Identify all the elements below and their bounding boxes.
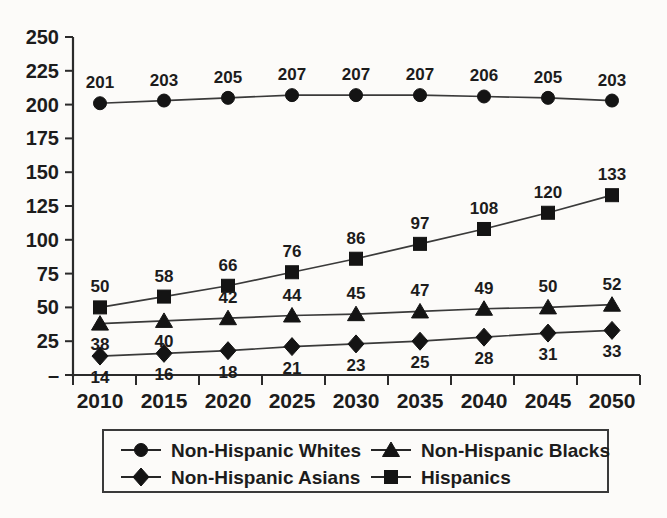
y-tick-label: 75 <box>37 263 59 285</box>
data-point-label: 205 <box>214 68 242 87</box>
legend-label: Hispanics <box>421 467 511 488</box>
x-category-label: 2050 <box>589 389 636 412</box>
series-circle <box>94 89 619 110</box>
data-point-label: 42 <box>219 288 238 307</box>
x-category-label: 2030 <box>333 389 380 412</box>
data-point-label: 47 <box>411 281 430 300</box>
marker-square <box>286 266 299 279</box>
marker-diamond <box>604 321 620 339</box>
y-tick-label: 25 <box>37 330 59 352</box>
legend-entry-triangle[interactable]: Non-Hispanic Blacks <box>371 440 610 461</box>
data-point-label: 21 <box>283 359 302 378</box>
data-point-label: 28 <box>475 349 494 368</box>
x-category-label: 2015 <box>141 389 188 412</box>
data-point-label: 206 <box>470 66 498 85</box>
marker-square <box>542 206 555 219</box>
data-point-label: 205 <box>534 68 562 87</box>
data-point-label: 203 <box>598 71 626 90</box>
data-point-label: 86 <box>347 229 366 248</box>
data-point-label: 16 <box>155 365 174 384</box>
y-tick-label: 150 <box>26 161 59 183</box>
marker-diamond <box>284 338 300 356</box>
data-point-label: 14 <box>91 368 110 387</box>
data-point-label: 45 <box>347 284 366 303</box>
data-point-label: 58 <box>155 267 174 286</box>
y-tick-label: 225 <box>26 60 59 82</box>
marker-triangle <box>604 297 621 312</box>
legend-entry-square[interactable]: Hispanics <box>371 467 511 488</box>
legend-label: Non-Hispanic Blacks <box>421 440 610 461</box>
marker-circle <box>414 89 427 102</box>
marker-circle <box>606 94 619 107</box>
data-point-label: 207 <box>342 65 370 84</box>
marker-circle <box>286 89 299 102</box>
data-point-label: 203 <box>150 71 178 90</box>
population-projection-line-chart: –255075100125150175200225250 20102015202… <box>0 0 667 518</box>
data-point-label: 120 <box>534 183 562 202</box>
marker-square <box>94 301 107 314</box>
data-point-label: 207 <box>406 65 434 84</box>
data-point-label: 133 <box>598 165 626 184</box>
data-point-label: 25 <box>411 353 430 372</box>
y-tick-label: 100 <box>26 229 59 251</box>
marker-circle <box>94 97 107 110</box>
legend-label: Non-Hispanic Whites <box>171 440 361 461</box>
marker-circle <box>158 94 171 107</box>
data-point-label: 18 <box>219 363 238 382</box>
x-category-label: 2035 <box>397 389 444 412</box>
marker-square <box>350 252 363 265</box>
data-point-label: 33 <box>603 342 622 361</box>
data-point-label: 97 <box>411 214 430 233</box>
marker-circle <box>135 444 148 457</box>
data-point-label: 23 <box>347 356 366 375</box>
marker-square <box>478 222 491 235</box>
data-point-label: 50 <box>91 277 110 296</box>
y-tick-label: 125 <box>26 195 59 217</box>
marker-circle <box>542 91 555 104</box>
data-point-label: 108 <box>470 199 498 218</box>
chart-figure: –255075100125150175200225250 20102015202… <box>0 0 667 518</box>
data-point-label: 38 <box>91 335 110 354</box>
marker-diamond <box>348 335 364 353</box>
data-point-label: 44 <box>283 286 302 305</box>
y-tick-label: 175 <box>26 127 59 149</box>
marker-circle <box>478 90 491 103</box>
marker-diamond <box>133 468 149 486</box>
chart-legend: Non-Hispanic WhitesNon-Hispanic BlacksNo… <box>103 430 610 492</box>
data-point-label: 31 <box>539 345 558 364</box>
legend-label: Non-Hispanic Asians <box>171 467 360 488</box>
data-point-label: 76 <box>283 242 302 261</box>
marker-diamond <box>412 332 428 350</box>
marker-square <box>606 189 619 202</box>
x-category-label: 2025 <box>269 389 316 412</box>
marker-diamond <box>476 328 492 346</box>
y-tick-label: – <box>48 364 59 386</box>
marker-diamond <box>540 324 556 342</box>
y-axis: –255075100125150175200225250 <box>26 26 73 386</box>
data-point-label: 201 <box>86 73 114 92</box>
data-point-label: 49 <box>475 279 494 298</box>
data-point-label: 40 <box>155 332 174 351</box>
legend-entry-circle[interactable]: Non-Hispanic Whites <box>121 440 361 461</box>
x-category-label: 2010 <box>77 389 124 412</box>
y-tick-label: 200 <box>26 94 59 116</box>
marker-circle <box>350 89 363 102</box>
marker-square <box>414 237 427 250</box>
marker-diamond <box>220 342 236 360</box>
series-layer <box>92 89 621 365</box>
marker-square <box>158 290 171 303</box>
x-category-label: 2020 <box>205 389 252 412</box>
legend-entry-diamond[interactable]: Non-Hispanic Asians <box>121 467 360 488</box>
data-point-label: 66 <box>219 256 238 275</box>
x-category-label: 2040 <box>461 389 508 412</box>
data-point-label: 207 <box>278 65 306 84</box>
y-tick-label: 250 <box>26 26 59 48</box>
marker-circle <box>222 91 235 104</box>
data-point-label: 52 <box>603 275 622 294</box>
x-category-label: 2045 <box>525 389 572 412</box>
marker-square <box>385 471 398 484</box>
y-tick-label: 50 <box>37 296 59 318</box>
data-point-label: 50 <box>539 277 558 296</box>
